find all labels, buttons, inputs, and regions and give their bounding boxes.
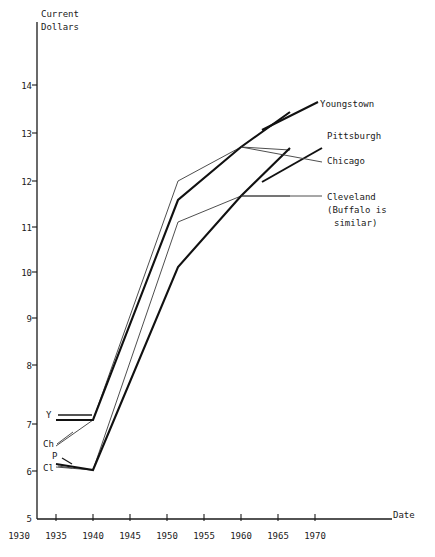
chart-canvas [0,0,435,557]
callout-leader-pittsburgh [262,148,322,182]
leader-line-tag-pittsburgh [62,458,72,464]
series-line-youngstown [56,112,290,420]
series-line-chicago [56,147,290,446]
leader-line-tag-chicago [57,432,73,444]
y-tick-marks [32,85,37,471]
line-chart: Current Dollars Date 14 13 12 11 10 9 8 … [0,0,435,557]
series-line-cleveland [56,196,290,470]
x-tick-marks [56,514,315,521]
callout-leader-youngstown [262,102,318,130]
